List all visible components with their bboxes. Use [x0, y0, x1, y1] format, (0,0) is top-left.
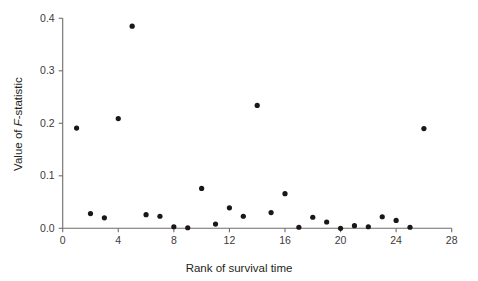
data-point: (23, 0.022) — [380, 214, 385, 219]
data-point: (16, 0.066) — [282, 191, 287, 196]
data-point: (8, 0.003) — [171, 224, 176, 229]
y-title-prefix: Value of — [12, 126, 24, 171]
x-tick-label: 8 — [171, 234, 177, 246]
x-tick-label: 20 — [335, 234, 347, 246]
y-tick-label: 0.4 — [40, 12, 55, 24]
x-tick-group: 0481216202428 — [60, 228, 458, 246]
y-axis-title: Value of F-statistic — [12, 77, 24, 171]
data-point: (14, 0.234) — [255, 103, 260, 108]
data-point: (15, 0.03) — [268, 210, 273, 215]
x-tick-label: 28 — [446, 234, 458, 246]
data-point: (19, 0.012) — [324, 219, 329, 224]
scatter-plot-figure: 0481216202428 0.00.10.20.30.4 (1, 0.191)… — [0, 0, 478, 281]
data-point: (13, 0.023) — [241, 214, 246, 219]
data-points-group: (1, 0.191)(2, 0.028)(3, 0.02)(4, 0.209)(… — [74, 24, 427, 231]
x-tick-label: 16 — [279, 234, 291, 246]
y-tick-label: 0.0 — [40, 222, 55, 234]
data-point: (21, 0.005) — [352, 223, 357, 228]
axes-group — [63, 18, 452, 228]
data-point: (9, 0.001) — [185, 225, 190, 230]
y-tick-label: 0.2 — [40, 117, 55, 129]
data-point: (1, 0.191) — [74, 125, 79, 130]
x-tick-label: 4 — [115, 234, 121, 246]
data-point: (4, 0.209) — [116, 116, 121, 121]
data-point: (2, 0.028) — [88, 211, 93, 216]
data-point: (17, 0.002) — [296, 225, 301, 230]
data-point: (25, 0.002) — [407, 225, 412, 230]
y-title-suffix: -statistic — [12, 77, 24, 119]
data-point: (22, 0.003) — [366, 224, 371, 229]
plot-canvas: 0481216202428 0.00.10.20.30.4 (1, 0.191)… — [0, 0, 478, 281]
data-point: (24, 0.015) — [394, 218, 399, 223]
x-tick-label: 24 — [390, 234, 402, 246]
y-tick-label: 0.3 — [40, 64, 55, 76]
x-tick-label: 0 — [60, 234, 66, 246]
data-point: (10, 0.076) — [199, 186, 204, 191]
data-point: (11, 0.008) — [213, 222, 218, 227]
y-tick-label: 0.1 — [40, 169, 55, 181]
data-point: (18, 0.021) — [310, 215, 315, 220]
data-point: (20, 0) — [338, 226, 343, 231]
data-point: (3, 0.02) — [102, 215, 107, 220]
x-axis-title: Rank of survival time — [186, 262, 293, 274]
data-point: (5, 0.385) — [130, 24, 135, 29]
axis-spine — [63, 18, 452, 228]
y-tick-group: 0.00.10.20.30.4 — [40, 12, 63, 234]
x-tick-label: 12 — [224, 234, 236, 246]
data-point: (12, 0.039) — [227, 205, 232, 210]
data-point: (7, 0.023) — [157, 214, 162, 219]
data-point: (6, 0.026) — [143, 212, 148, 217]
data-point: (26, 0.19) — [421, 126, 426, 131]
